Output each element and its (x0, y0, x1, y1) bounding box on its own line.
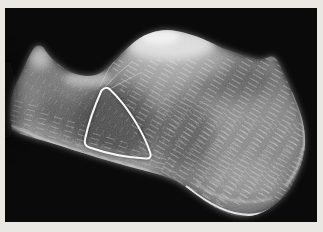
radiograph-svg (0, 0, 323, 232)
radiograph-figure (0, 0, 323, 232)
